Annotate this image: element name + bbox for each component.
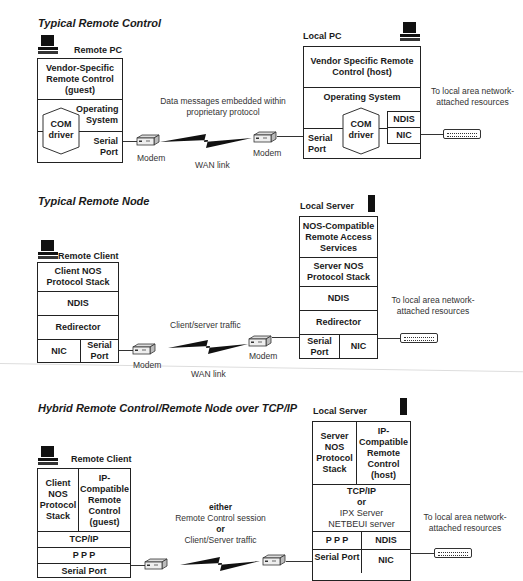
- remote-pc-label: Remote PC: [74, 45, 122, 55]
- layer-ndis: NDIS: [361, 531, 410, 549]
- modem-right-label: Modem: [253, 148, 281, 159]
- modem-icon: [248, 335, 272, 347]
- local-server-label: Local Server: [300, 201, 354, 211]
- layer-transport-options: TCP/IP or IPX Server NETBEUI server: [313, 484, 410, 531]
- modem-icon: [132, 343, 156, 355]
- link-caption: Data messages embedded within proprietar…: [158, 96, 288, 118]
- layer-client-nos-protocol-stack: Client NOS Protocol Stack: [38, 469, 78, 531]
- wan-link-lightning-icon: [168, 335, 248, 357]
- wan-link-lightning-icon: [160, 130, 252, 152]
- remote-pc-stack: Vendor-Specific Remote Control (guest) O…: [37, 58, 123, 163]
- lan-caption: To local area network-attached resources: [415, 512, 515, 534]
- server-tower-icon: [368, 195, 375, 212]
- layer-nic: NIC: [361, 549, 410, 573]
- remote-client-icon: [38, 446, 58, 466]
- modem-icon: [144, 558, 168, 570]
- local-pc-label: Local PC: [303, 31, 342, 41]
- remote-client-stack: Client NOS Protocol Stack IP-Compatible …: [37, 468, 131, 578]
- serial-cable: [123, 141, 137, 142]
- layer-nos-compatible-ras: NOS-Compatible Remote Access Services: [300, 217, 377, 257]
- layer-serial-port: Serial Port: [80, 339, 118, 362]
- layer-ip-remote-control-guest: IP-Compatible Remote Control (guest): [78, 469, 130, 531]
- layer-serial-port: Serial Port: [313, 549, 361, 573]
- serial-cable: [272, 337, 299, 338]
- wan-link-lightning-icon: [180, 552, 260, 574]
- layer-ppp: P P P: [38, 547, 130, 563]
- com-driver-label: COM driver: [342, 115, 380, 145]
- lan-cable: [421, 134, 443, 135]
- local-pc-stack: Vendor Specific Remote Control (host) Op…: [303, 46, 421, 159]
- serial-cable: [286, 561, 312, 562]
- lan-hub-icon: [400, 333, 438, 343]
- layer-server-nos-protocol-stack: Server NOS Protocol Stack: [313, 422, 356, 484]
- link-caption: either Remote Control session or Client/…: [163, 502, 278, 546]
- link-caption: Client/server traffic: [170, 320, 241, 331]
- remote-client-stack: Client NOS Protocol Stack NDIS Redirecto…: [37, 262, 119, 363]
- section-title-remote-node: Typical Remote Node: [38, 195, 149, 207]
- local-server-stack: NOS-Compatible Remote Access Services Se…: [299, 216, 378, 359]
- scan-artifact: [0, 363, 523, 372]
- remote-client-label: Remote Client: [58, 251, 119, 261]
- modem-icon: [136, 134, 160, 146]
- layer-ndis: NDIS: [300, 286, 377, 310]
- section-title-remote-control: Typical Remote Control: [38, 17, 161, 29]
- layer-ip-remote-control-host: IP-Compatible Remote Control (host): [356, 422, 410, 484]
- local-server-stack: Server NOS Protocol Stack IP-Compatible …: [312, 421, 411, 581]
- serial-cable: [277, 136, 304, 137]
- local-server-label: Local Server: [313, 406, 367, 416]
- serial-cable: [119, 350, 133, 351]
- layer-server-nos-protocol-stack: Server NOS Protocol Stack: [300, 257, 377, 286]
- remote-client-icon: [38, 240, 58, 260]
- lan-caption: To local area network-attached resources: [425, 86, 520, 108]
- layer-client-nos-protocol-stack: Client NOS Protocol Stack: [38, 263, 118, 291]
- com-driver-label: COM driver: [42, 115, 80, 145]
- modem-left-label: Modem: [137, 153, 165, 164]
- lan-cable: [378, 338, 401, 339]
- modem-left-label: Modem: [133, 360, 161, 371]
- wan-link-label: WAN link: [195, 160, 230, 171]
- layer-nic: NIC: [339, 334, 377, 358]
- remote-client-label: Remote Client: [71, 454, 132, 464]
- modem-icon: [262, 554, 286, 566]
- layer-redirector: Redirector: [38, 315, 118, 339]
- server-tower-icon: [400, 398, 407, 415]
- lan-hub-icon: [434, 548, 472, 558]
- modem-right-label: Modem: [249, 351, 277, 362]
- layer-nic: NIC: [387, 127, 421, 144]
- lan-cable: [411, 553, 435, 554]
- local-pc-icon: [400, 22, 420, 42]
- layer-tcpip: TCP/IP: [38, 531, 130, 547]
- lan-hub-icon: [443, 129, 481, 139]
- layer-ndis: NDIS: [38, 291, 118, 315]
- section-title-hybrid: Hybrid Remote Control/Remote Node over T…: [38, 402, 297, 414]
- layer-vendor-remote-control-host: Vendor Specific Remote Control (host): [304, 47, 420, 87]
- wan-link-label: WAN link: [191, 369, 226, 380]
- layer-serial-port: Serial Port: [38, 563, 130, 579]
- serial-cable: [131, 565, 145, 566]
- layer-ppp: P P P: [313, 531, 361, 549]
- layer-nic: NIC: [38, 339, 80, 362]
- remote-pc-icon: [38, 35, 58, 55]
- layer-serial-port: Serial Port: [300, 334, 339, 358]
- layer-ndis: NDIS: [387, 111, 421, 128]
- lan-caption: To local area network-attached resources: [383, 295, 483, 317]
- layer-vendor-remote-control-guest: Vendor-Specific Remote Control (guest): [38, 59, 122, 99]
- layer-redirector: Redirector: [300, 310, 377, 334]
- modem-icon: [253, 131, 277, 143]
